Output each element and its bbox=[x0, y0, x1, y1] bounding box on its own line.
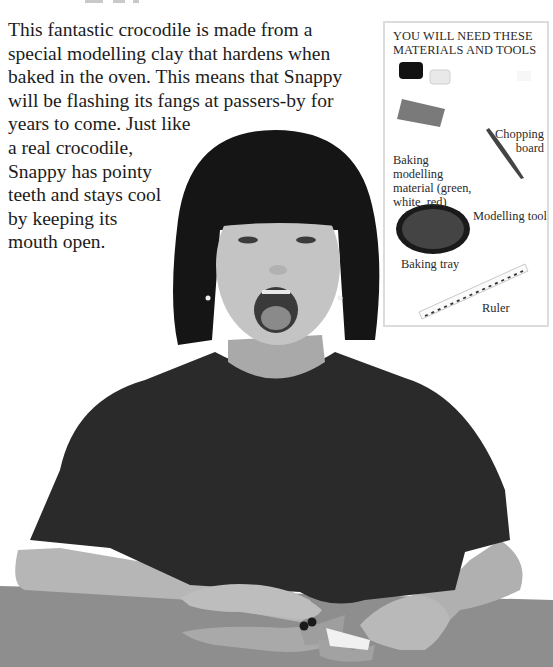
material-label-ruler: Ruler bbox=[482, 301, 510, 315]
intro-line: This fantastic crocodile is made from a bbox=[8, 18, 368, 42]
label-line: board bbox=[489, 141, 544, 155]
right-arm bbox=[380, 540, 523, 645]
label-line: Modelling tool bbox=[473, 209, 547, 223]
intro-line: by keeping its bbox=[8, 207, 368, 231]
intro-paragraph: This fantastic crocodile is made from a … bbox=[8, 18, 368, 254]
intro-line: will be flashing its fangs at passers-by… bbox=[8, 89, 368, 113]
table-surface bbox=[0, 586, 553, 667]
shirt bbox=[30, 352, 510, 604]
label-line: Baking tray bbox=[401, 257, 459, 271]
neck bbox=[228, 335, 325, 379]
intro-line: years to come. Just like bbox=[8, 112, 368, 136]
cropped-heading-fragment bbox=[85, 0, 155, 4]
chopping-board-icon bbox=[517, 71, 531, 81]
intro-line: teeth and stays cool bbox=[8, 183, 368, 207]
intro-line: Snappy has pointy bbox=[8, 160, 368, 184]
clay-crocodile bbox=[182, 615, 375, 662]
intro-line: a real crocodile, bbox=[8, 136, 368, 160]
label-line: Chopping bbox=[489, 127, 544, 141]
baking-tray-icon bbox=[396, 204, 470, 254]
clay-blocks-icon bbox=[397, 62, 450, 127]
right-hand bbox=[360, 595, 450, 650]
intro-line: special modelling clay that hardens when bbox=[8, 42, 368, 66]
materials-box: YOU WILL NEED THESE MATERIALS AND TOOLS … bbox=[383, 21, 549, 327]
left-hand bbox=[180, 584, 322, 619]
material-label-chopping-board: Chopping board bbox=[489, 127, 544, 155]
open-mouth bbox=[254, 287, 298, 333]
material-label-baking-tray: Baking tray bbox=[401, 257, 459, 271]
material-label-modelling-tool: Modelling tool bbox=[473, 209, 547, 223]
ruler-icon bbox=[419, 264, 528, 319]
label-line: Ruler bbox=[482, 301, 510, 315]
label-line: white, red) bbox=[393, 195, 471, 209]
left-arm bbox=[15, 548, 312, 622]
intro-line: baked in the oven. This means that Snapp… bbox=[8, 65, 368, 89]
label-line: modelling bbox=[393, 167, 471, 181]
label-line: material (green, bbox=[393, 181, 471, 195]
material-label-clay: Baking modelling material (green, white,… bbox=[393, 153, 471, 209]
intro-line: mouth open. bbox=[8, 230, 368, 254]
label-line: Baking bbox=[393, 153, 471, 167]
